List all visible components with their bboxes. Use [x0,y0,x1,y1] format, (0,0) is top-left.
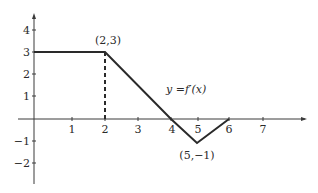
y-tick-label: 4 [23,24,30,37]
x-tick-label: 1 [69,123,76,136]
x-tick-label: 6 [226,123,233,136]
y-tick-label: 2 [23,68,30,81]
x-axis-arrow-icon [301,117,307,121]
chart: 1 2 3 4 5 6 7 4 3 2 1 −1 −2 (2,3) (5,−1)… [0,0,318,193]
point-label-5-neg1: (5,−1) [179,149,214,162]
y-tick-labels: 4 3 2 1 −1 −2 [14,24,30,170]
point-label-2-3: (2,3) [95,34,121,47]
y-tick-label: 1 [23,90,30,103]
x-tick-labels: 1 2 3 4 5 6 7 [69,123,267,136]
function-label: y =f′(x) [165,83,206,96]
x-tick-label: 2 [102,123,109,136]
y-tick-label: −1 [14,135,30,148]
x-tick-label: 7 [260,123,267,136]
y-tick-label: 3 [23,46,30,59]
x-tick-label: 3 [135,123,142,136]
axes [18,13,307,184]
x-tick-label: 4 [169,123,176,136]
y-axis-arrow-icon [32,13,36,19]
y-tick-label: −2 [14,157,30,170]
x-tick-label: 5 [195,123,202,136]
